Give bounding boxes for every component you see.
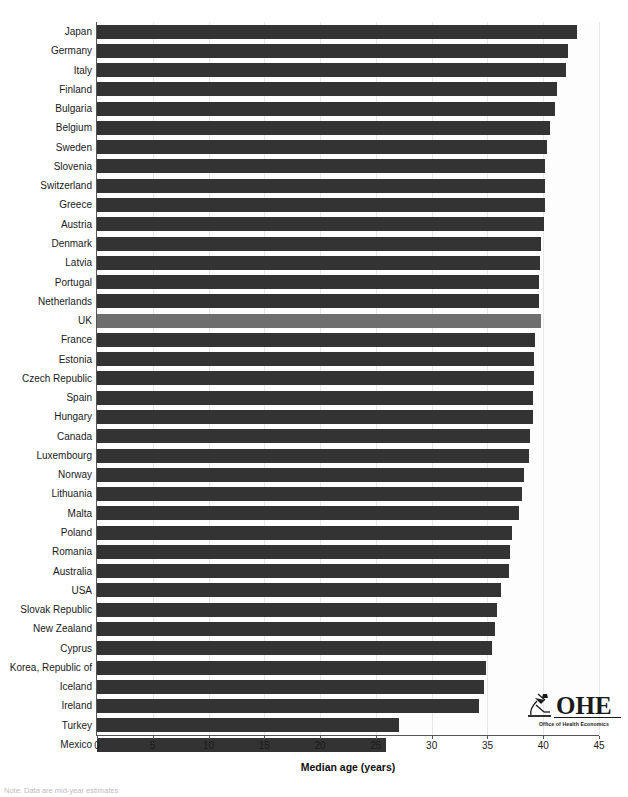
category-label-denmark: Denmark <box>0 234 92 253</box>
bar-korea-republic-of <box>97 661 486 675</box>
category-label-czech-republic: Czech Republic <box>0 369 92 388</box>
bar-row <box>97 292 599 311</box>
bar-row <box>97 138 599 157</box>
category-label-uk: UK <box>0 311 92 330</box>
category-label-hungary: Hungary <box>0 407 92 426</box>
category-label-italy: Italy <box>0 61 92 80</box>
bar-row <box>97 350 599 369</box>
x-tick-label-0: 0 <box>94 740 100 751</box>
bar-row <box>97 542 599 561</box>
category-label-switzerland: Switzerland <box>0 176 92 195</box>
bar-latvia <box>97 256 540 270</box>
x-tick-mark-40 <box>543 736 544 739</box>
bar-uk <box>97 314 541 328</box>
bar-finland <box>97 82 557 96</box>
bar-row <box>97 581 599 600</box>
bar-turkey <box>97 718 399 732</box>
bar-poland <box>97 526 512 540</box>
bar-slovenia <box>97 159 545 173</box>
bar-austria <box>97 217 544 231</box>
bar-row <box>97 22 599 41</box>
category-label-france: France <box>0 330 92 349</box>
category-label-austria: Austria <box>0 215 92 234</box>
bar-germany <box>97 44 568 58</box>
x-axis-title: Median age (years) <box>97 761 599 773</box>
ohe-logo-caption: Office of Health Economics <box>524 721 624 727</box>
category-label-iceland: Iceland <box>0 677 92 696</box>
bar-sweden <box>97 140 547 154</box>
bar-row <box>97 61 599 80</box>
bar-greece <box>97 198 545 212</box>
category-label-slovak-republic: Slovak Republic <box>0 600 92 619</box>
bar-italy <box>97 63 566 77</box>
bar-cyprus <box>97 641 492 655</box>
category-label-sweden: Sweden <box>0 138 92 157</box>
x-tick-mark-25 <box>376 736 377 739</box>
plot-area <box>97 22 599 735</box>
bar-row <box>97 369 599 388</box>
category-label-romania: Romania <box>0 542 92 561</box>
category-label-cyprus: Cyprus <box>0 639 92 658</box>
bar-row <box>97 157 599 176</box>
bar-row <box>97 523 599 542</box>
microscope-icon <box>528 694 551 716</box>
bar-lithuania <box>97 487 522 501</box>
category-label-korea-republic-of: Korea, Republic of <box>0 658 92 677</box>
category-label-australia: Australia <box>0 562 92 581</box>
x-tick-mark-5 <box>153 736 154 739</box>
bar-romania <box>97 545 510 559</box>
x-tick-mark-30 <box>432 736 433 739</box>
ohe-logo: OHE Office of Health Economics <box>524 688 624 732</box>
category-label-germany: Germany <box>0 41 92 60</box>
category-label-finland: Finland <box>0 80 92 99</box>
category-label-estonia: Estonia <box>0 350 92 369</box>
bar-row <box>97 619 599 638</box>
category-label-canada: Canada <box>0 427 92 446</box>
bar-row <box>97 504 599 523</box>
bar-slovak-republic <box>97 603 497 617</box>
x-tick-label-45: 45 <box>593 740 604 751</box>
bar-luxembourg <box>97 449 529 463</box>
bar-row <box>97 465 599 484</box>
category-label-belgium: Belgium <box>0 118 92 137</box>
bar-row <box>97 639 599 658</box>
bar-malta <box>97 506 519 520</box>
category-label-netherlands: Netherlands <box>0 292 92 311</box>
bar-belgium <box>97 121 550 135</box>
category-label-new-zealand: New Zealand <box>0 619 92 638</box>
bar-bulgaria <box>97 102 555 116</box>
bar-row <box>97 99 599 118</box>
bar-row <box>97 176 599 195</box>
x-tick-label-25: 25 <box>370 740 381 751</box>
bar-series <box>97 22 599 735</box>
bar-row <box>97 388 599 407</box>
bar-france <box>97 333 535 347</box>
bar-norway <box>97 468 524 482</box>
bar-australia <box>97 564 509 578</box>
x-axis-ticks: 051015202530354045 <box>97 736 599 754</box>
bar-denmark <box>97 237 541 251</box>
bar-iceland <box>97 680 484 694</box>
bar-row <box>97 80 599 99</box>
bar-netherlands <box>97 294 539 308</box>
bar-switzerland <box>97 179 545 193</box>
bar-row <box>97 118 599 137</box>
bar-row <box>97 330 599 349</box>
category-label-spain: Spain <box>0 388 92 407</box>
x-tick-label-15: 15 <box>259 740 270 751</box>
category-label-bulgaria: Bulgaria <box>0 99 92 118</box>
bar-row <box>97 484 599 503</box>
category-label-portugal: Portugal <box>0 273 92 292</box>
category-label-poland: Poland <box>0 523 92 542</box>
category-label-mexico: Mexico <box>0 735 92 754</box>
x-tick-mark-15 <box>264 736 265 739</box>
bar-row <box>97 234 599 253</box>
category-label-latvia: Latvia <box>0 253 92 272</box>
bar-row <box>97 446 599 465</box>
bar-estonia <box>97 352 534 366</box>
x-tick-label-20: 20 <box>315 740 326 751</box>
category-label-greece: Greece <box>0 195 92 214</box>
x-tick-mark-0 <box>97 736 98 739</box>
x-tick-label-35: 35 <box>482 740 493 751</box>
category-label-japan: Japan <box>0 22 92 41</box>
